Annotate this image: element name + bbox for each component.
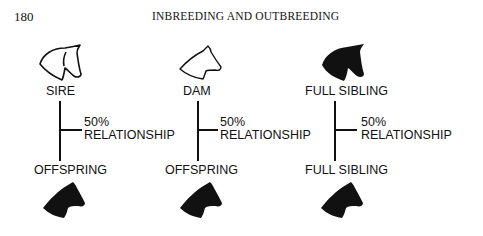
relationship-horizontal-line — [197, 129, 218, 131]
horse-head-solid-icon — [318, 181, 364, 221]
page-number: 180 — [14, 9, 34, 25]
bottom-label: OFFSPRING — [165, 164, 238, 177]
relationship-text: 50% RELATIONSHIP — [361, 116, 452, 142]
top-label: SIRE — [46, 85, 75, 98]
relationship-text: 50% RELATIONSHIP — [220, 116, 311, 142]
horse-head-outline-icon — [37, 44, 83, 82]
horse-head-solid-icon — [40, 181, 86, 221]
horse-head-outline-icon — [177, 45, 223, 81]
horse-head-solid-icon — [320, 43, 366, 83]
relationship-vertical-line — [59, 101, 61, 161]
relationship-label: RELATIONSHIP — [220, 129, 311, 142]
running-title: INBREEDING AND OUTBREEDING — [152, 10, 339, 22]
relationship-horizontal-line — [334, 129, 357, 131]
top-label: DAM — [183, 85, 211, 98]
relationship-vertical-line — [334, 101, 336, 161]
bottom-label: FULL SIBLING — [305, 164, 388, 177]
horse-head-solid-icon — [177, 181, 223, 221]
relationship-vertical-line — [197, 101, 199, 161]
relationship-label: RELATIONSHIP — [361, 129, 452, 142]
relationship-text: 50% RELATIONSHIP — [84, 116, 175, 142]
bottom-label: OFFSPRING — [34, 164, 107, 177]
relationship-horizontal-line — [59, 129, 82, 131]
top-label: FULL SIBLING — [305, 85, 388, 98]
relationship-label: RELATIONSHIP — [84, 129, 175, 142]
